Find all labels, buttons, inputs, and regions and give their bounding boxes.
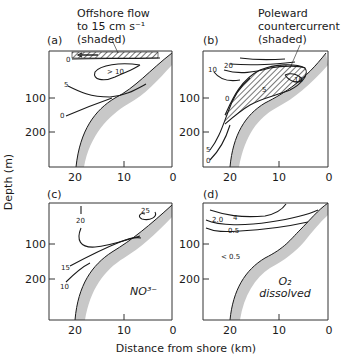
y-tick-label: 200 (179, 273, 200, 286)
contour-label: 0.5 (228, 227, 239, 235)
y-axis-title: Depth (m) (2, 154, 15, 210)
y-tick-label: 200 (25, 273, 46, 286)
shelf-c (75, 205, 172, 320)
x-tick-label: 20 (68, 171, 82, 184)
species-label-nitrate: NO³⁻ (130, 285, 157, 298)
panel-a: (a) Offshore flow to 15 cm s⁻¹ (shaded) … (25, 7, 177, 184)
y-tick-label: 100 (25, 92, 46, 105)
x-tick-label: 0 (326, 324, 333, 337)
contour-label: > 10 (107, 68, 124, 76)
contour-label: 25 (141, 207, 150, 215)
annotation-b-line1: Poleward (258, 7, 308, 20)
y-tick-label: 100 (179, 238, 200, 251)
y-tick-label: 200 (25, 126, 46, 139)
annotation-a-line1: Offshore flow (77, 7, 150, 20)
contour-label: 0 (66, 56, 70, 64)
contour-label: 5 (64, 81, 68, 89)
x-tick-label: 0 (326, 171, 333, 184)
contour-label: 10 (60, 283, 69, 291)
x-tick-label: 10 (272, 324, 286, 337)
y-tick-label: 200 (179, 126, 200, 139)
x-tick-label: 0 (170, 324, 177, 337)
x-tick-label: 10 (117, 324, 131, 337)
contour-label: 10 (208, 66, 217, 74)
x-axis-title: Distance from shore (km) (116, 342, 256, 355)
contour-label: 20 (76, 217, 85, 225)
x-tick-label: 20 (223, 171, 237, 184)
contour-label: 20 (224, 62, 233, 70)
x-tick-label: 0 (170, 171, 177, 184)
contour-label: 4 (233, 214, 238, 222)
panel-label-a: (a) (47, 34, 62, 47)
contour-label: 0 (225, 95, 229, 103)
annotation-a-line2: to 15 cm s⁻¹ (77, 20, 145, 33)
annotation-a-line3: (shaded) (77, 33, 126, 46)
species-label-dissolved: dissolved (259, 287, 312, 300)
annotation-b-line2: countercurrent (258, 20, 340, 33)
contour-label: 0 (206, 157, 210, 165)
x-tick-label: 10 (272, 171, 286, 184)
panel-c: (c) 20 25 15 10 NO³⁻ 100 200 20 10 0 (25, 188, 177, 337)
contour-label: 10 (294, 76, 303, 84)
contour-label: 15 (61, 264, 70, 272)
panel-b: (b) Poleward countercurrent (shaded) 20 … (179, 7, 340, 184)
panel-label-c: (c) (47, 188, 62, 201)
panel-label-b: (b) (203, 34, 219, 47)
shelf-a (76, 53, 172, 167)
contour-label: 5 (262, 86, 266, 94)
y-tick-label: 100 (179, 92, 200, 105)
figure-canvas: Depth (m) Distance from shore (km) (a) O… (0, 0, 344, 364)
annotation-b-line2: (shaded) (258, 33, 307, 46)
x-tick-label: 20 (68, 324, 82, 337)
panel-d: (d) 4 2.0 0.5 < 0.5 O₂ dissolved 100 200… (179, 188, 333, 337)
x-tick-label: 10 (117, 171, 131, 184)
contour-label: 0 (60, 112, 64, 120)
x-tick-label: 20 (223, 324, 237, 337)
y-tick-label: 100 (25, 238, 46, 251)
contour-label: 2.0 (212, 216, 223, 224)
contour-label: 5 (206, 146, 210, 154)
panel-label-d: (d) (203, 188, 219, 201)
contour-label: < 0.5 (221, 253, 240, 261)
